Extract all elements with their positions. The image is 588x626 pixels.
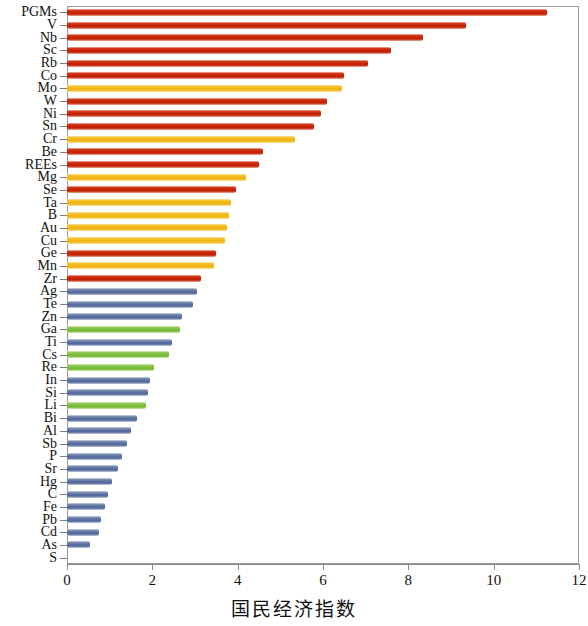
y-axis-tick <box>60 63 67 64</box>
bar-P <box>67 453 579 460</box>
bar-fill <box>67 22 466 29</box>
bar-fill <box>67 98 327 105</box>
y-axis-tick <box>60 304 67 305</box>
bar-fill <box>67 174 246 181</box>
bar-fill <box>67 161 259 168</box>
y-axis-tick <box>60 76 67 77</box>
y-axis-tick <box>60 418 67 419</box>
bar-fill <box>67 427 131 434</box>
y-axis-label-Fe: Fe <box>43 501 57 512</box>
y-axis-label-Pb: Pb <box>42 514 57 525</box>
y-axis-label-Nb: Nb <box>40 32 57 43</box>
bar-C <box>67 491 579 498</box>
y-axis-tick <box>60 431 67 432</box>
x-axis-tick <box>67 564 68 570</box>
bar-S <box>67 554 579 561</box>
bar-fill <box>67 60 368 67</box>
bar-fill <box>67 339 172 346</box>
bar-fill <box>67 402 146 409</box>
y-axis-tick <box>60 88 67 89</box>
y-axis-label-Sb: Sb <box>42 438 57 449</box>
y-axis-tick <box>60 367 67 368</box>
bar-chart: PGMsVNbScRbCoMoWNiSnCrBeREEsMgSeTaBAuCuG… <box>0 0 588 626</box>
y-axis-label-Bi: Bi <box>44 412 57 423</box>
y-axis-label-Ti: Ti <box>45 336 57 347</box>
y-axis-label-V: V <box>47 19 57 30</box>
bar-Ta <box>67 199 579 206</box>
bar-Cr <box>67 136 579 143</box>
bar-fill <box>67 47 391 54</box>
x-axis-tick-label: 10 <box>486 572 501 589</box>
y-axis-tick <box>60 165 67 166</box>
y-axis-label-S: S <box>49 552 57 563</box>
bar-Ti <box>67 339 579 346</box>
bar-Li <box>67 402 579 409</box>
y-axis-tick <box>60 545 67 546</box>
x-axis-tick-label: 4 <box>234 572 242 589</box>
bar-fill <box>67 275 201 282</box>
y-axis-tick <box>60 279 67 280</box>
y-axis-tick <box>60 355 67 356</box>
bar-Cd <box>67 529 579 536</box>
bar-fill <box>67 110 321 117</box>
bar-Au <box>67 224 579 231</box>
x-axis-tick-label: 8 <box>405 572 413 589</box>
bar-fill <box>67 72 344 79</box>
bar-In <box>67 377 579 384</box>
y-axis-label-Sc: Sc <box>43 44 57 55</box>
bar-fill <box>67 364 154 371</box>
bar-fill <box>67 262 214 269</box>
bar-fill <box>67 465 118 472</box>
y-axis-tick <box>60 469 67 470</box>
bar-fill <box>67 415 137 422</box>
x-axis-tick <box>494 564 495 570</box>
bar-Sr <box>67 465 579 472</box>
bar-Se <box>67 186 579 193</box>
y-axis-label-Ni: Ni <box>43 108 57 119</box>
bar-Be <box>67 148 579 155</box>
bar-Nb <box>67 34 579 41</box>
bar-Sb <box>67 440 579 447</box>
y-axis-tick <box>60 126 67 127</box>
y-axis-tick <box>60 456 67 457</box>
bar-Co <box>67 72 579 79</box>
bar-Cs <box>67 351 579 358</box>
y-axis-label-B: B <box>48 209 57 220</box>
bar-Si <box>67 389 579 396</box>
bar-fill <box>67 440 127 447</box>
y-axis-label-Li: Li <box>45 399 57 410</box>
bar-REEs <box>67 161 579 168</box>
y-axis-tick <box>60 444 67 445</box>
bar-fill <box>67 301 193 308</box>
y-axis-label-Hg: Hg <box>40 476 57 487</box>
y-axis-label-REEs: REEs <box>25 159 57 170</box>
x-axis-tick-label: 2 <box>149 572 157 589</box>
y-axis-label-PGMs: PGMs <box>21 6 57 17</box>
y-axis-label-Cr: Cr <box>43 133 57 144</box>
bar-Al <box>67 427 579 434</box>
y-axis-label-Be: Be <box>41 146 57 157</box>
y-axis-label-Te: Te <box>43 298 57 309</box>
bar-fill <box>67 516 101 523</box>
y-axis-label-Co: Co <box>41 70 57 81</box>
y-axis-label-Ta: Ta <box>43 197 57 208</box>
y-axis-tick <box>60 152 67 153</box>
bar-fill <box>67 9 547 16</box>
bar-fill <box>67 250 216 257</box>
bar-Sc <box>67 47 579 54</box>
bar-Te <box>67 301 579 308</box>
y-axis-label-P: P <box>49 450 57 461</box>
y-axis-tick <box>60 139 67 140</box>
y-axis-label-Re: Re <box>41 361 57 372</box>
x-axis-tick <box>579 564 580 570</box>
bar-fill <box>67 541 90 548</box>
y-axis-label-C: C <box>48 488 57 499</box>
bar-fill <box>67 503 105 510</box>
y-axis-label-Mg: Mg <box>38 171 57 182</box>
bar-fill <box>67 453 122 460</box>
bar-fill <box>67 123 314 130</box>
y-axis-label-Ga: Ga <box>41 323 57 334</box>
bar-B <box>67 212 579 219</box>
y-axis-tick <box>60 482 67 483</box>
y-axis-label-Zr: Zr <box>44 273 57 284</box>
